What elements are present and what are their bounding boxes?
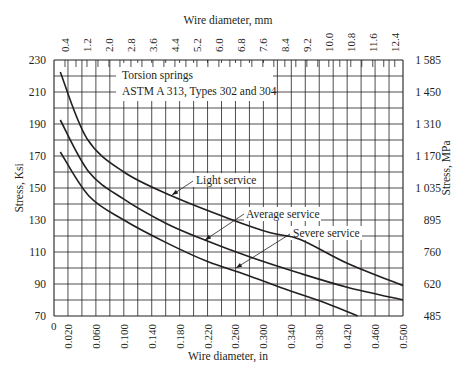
y-tick-label: 170 (29, 150, 47, 162)
x-tick-label: 0.340 (285, 324, 297, 349)
x2-tick-label: 6.0 (213, 38, 225, 52)
x-tick-label: 0.180 (174, 324, 186, 349)
x-tick-label: 0.380 (313, 324, 325, 349)
x-tick-label: 0.300 (257, 324, 269, 349)
y-tick-label: 110 (29, 246, 46, 258)
x-axis-title: Wire diameter, in (188, 350, 268, 363)
chart: 00.0200.0600.1000.1400.1800.2200.2600.30… (0, 0, 467, 379)
average-service-label: Average service (246, 208, 320, 221)
x-tick-label: 0 (51, 320, 57, 332)
severe-service-label: Severe service (293, 227, 360, 239)
y-tick-label: 230 (29, 54, 47, 66)
x2-tick-label: 8.4 (279, 38, 291, 52)
x2-tick-label: 1.2 (81, 38, 93, 52)
y-tick-label: 130 (29, 214, 47, 226)
x-tick-label: 0.220 (202, 324, 214, 349)
y-axis-title: Stress, Ksi (13, 163, 26, 212)
y2-tick-label: 620 (424, 278, 442, 290)
x2-tick-label: 3.6 (147, 38, 159, 52)
x-tick-label: 0.500 (397, 324, 409, 349)
light-service-arrow-head (172, 190, 178, 195)
y-tick-label: 150 (29, 182, 47, 194)
x2-tick-label: 7.6 (257, 38, 269, 52)
chart-subtitle: ASTM A 313, Types 302 and 304 (122, 85, 277, 98)
y2-tick-label: 1 450 (415, 86, 441, 98)
y-tick-label: 90 (35, 278, 47, 290)
y-tick-label: 70 (35, 310, 47, 322)
average-service-curve (60, 120, 403, 300)
y2-tick-label: 1 585 (415, 54, 441, 66)
x2-tick-label: 12.4 (389, 32, 401, 52)
x-tick-label: 0.420 (341, 324, 353, 349)
x-tick-label: 0.260 (229, 324, 241, 349)
y2-tick-label: 485 (424, 310, 442, 322)
x2-tick-label: 11.6 (367, 33, 379, 52)
x2-tick-label: 0.4 (59, 38, 71, 52)
x2-axis-title: Wire diameter, mm (184, 14, 273, 27)
curves (60, 72, 403, 316)
y2-tick-label: 760 (424, 246, 442, 258)
x-tick-label: 0.020 (62, 324, 74, 349)
y2-tick-label: 1 035 (415, 182, 441, 194)
x2-tick-label: 4.4 (169, 38, 181, 52)
x2-tick-label: 6.8 (235, 38, 247, 52)
top-tick-marks (65, 60, 395, 67)
x2-tick-label: 5.2 (191, 38, 203, 52)
light-service-label: Light service (196, 174, 256, 187)
x-tick-label: 0.060 (90, 324, 102, 349)
y2-tick-label: 1 170 (415, 150, 441, 162)
y2-tick-label: 1 310 (415, 118, 441, 130)
x-tick-label: 0.460 (369, 324, 381, 349)
leader-arrows (172, 181, 290, 268)
y-tick-label: 210 (29, 86, 47, 98)
x2-tick-label: 9.2 (301, 38, 313, 52)
x2-tick-label: 10.8 (345, 32, 357, 52)
x2-tick-label: 2.8 (125, 38, 137, 52)
y-tick-label: 190 (29, 118, 47, 130)
severe-service-arrow-head (236, 263, 242, 268)
y2-axis-title: Stress, MPa (440, 141, 453, 196)
y2-tick-label: 895 (424, 214, 442, 226)
chart-title: Torsion springs (122, 69, 194, 82)
x-tick-label: 0.100 (118, 324, 130, 349)
x2-tick-label: 10.0 (323, 32, 335, 52)
x-tick-label: 0.140 (146, 324, 158, 349)
x2-tick-label: 2.0 (103, 38, 115, 52)
